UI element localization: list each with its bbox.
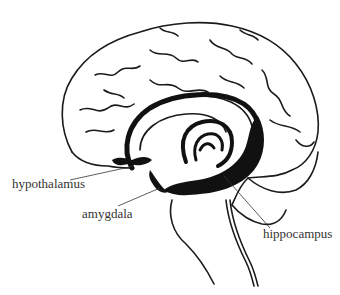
hypothalamus-shape <box>112 157 152 165</box>
brainstem-back2 <box>230 200 258 286</box>
brain-illustration <box>0 0 340 295</box>
label-hypothalamus: hypothalamus <box>12 176 85 192</box>
brain-diagram: hypothalamus amygdala hippocampus <box>0 0 340 295</box>
hippocampus-shape <box>164 116 264 195</box>
brainstem-front <box>171 200 214 284</box>
amygdala-leader <box>118 188 160 206</box>
label-hippocampus: hippocampus <box>263 226 332 242</box>
label-amygdala: amygdala <box>82 206 133 222</box>
